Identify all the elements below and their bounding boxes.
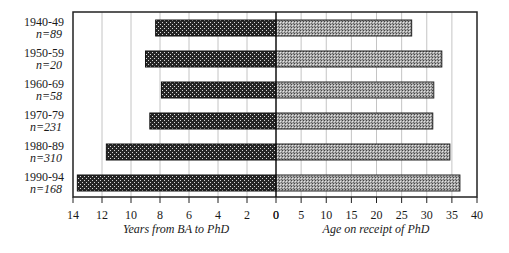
row-label: 1990-94n=168	[0, 171, 64, 195]
row-label: 1940-49n=89	[0, 16, 64, 40]
gridlines	[102, 12, 452, 197]
bar-age-at-phd	[276, 175, 460, 191]
sample-size-label: n=168	[0, 183, 64, 195]
right-tick-label: 30	[421, 208, 433, 223]
bar-years-ba-to-phd	[106, 144, 276, 160]
right-tick-label: 35	[446, 208, 458, 223]
sample-size-label: n=89	[0, 28, 64, 40]
row-label: 1980-89n=310	[0, 140, 64, 164]
bar-years-ba-to-phd	[146, 51, 277, 67]
left-tick-label: 10	[125, 208, 137, 223]
bars	[77, 20, 460, 191]
right-tick-label: 20	[371, 208, 383, 223]
sample-size-label: n=310	[0, 152, 64, 164]
bar-years-ba-to-phd	[161, 82, 276, 98]
plot-frame	[73, 12, 477, 197]
left-tick-label: 2	[244, 208, 250, 223]
left-tick-label: 12	[96, 208, 108, 223]
sample-size-label: n=231	[0, 121, 64, 133]
bar-age-at-phd	[276, 82, 434, 98]
back-to-back-bar-chart: 1940-49n=891950-59n=201960-69n=581970-79…	[0, 0, 509, 253]
left-axis-title: Years from BA to PhD	[123, 222, 229, 237]
bar-age-at-phd	[276, 20, 412, 36]
left-tick-label: 6	[186, 208, 192, 223]
left-tick-label: 8	[157, 208, 163, 223]
left-tick-label: 14	[67, 208, 79, 223]
right-tick-label: 5	[298, 208, 304, 223]
right-tick-label: 0	[273, 208, 279, 223]
bar-age-at-phd	[276, 51, 442, 67]
row-label: 1970-79n=231	[0, 109, 64, 133]
bar-years-ba-to-phd	[77, 175, 276, 191]
bar-years-ba-to-phd	[156, 20, 276, 36]
bar-years-ba-to-phd	[150, 113, 276, 129]
bar-age-at-phd	[276, 144, 450, 160]
right-axis-title: Age on receipt of PhD	[323, 222, 430, 237]
sample-size-label: n=58	[0, 90, 64, 102]
sample-size-label: n=20	[0, 59, 64, 71]
right-tick-label: 10	[320, 208, 332, 223]
tick-marks	[73, 197, 477, 203]
row-label: 1950-59n=20	[0, 47, 64, 71]
right-tick-label: 40	[471, 208, 483, 223]
row-label: 1960-69n=58	[0, 78, 64, 102]
bar-age-at-phd	[276, 113, 433, 129]
right-tick-label: 15	[345, 208, 357, 223]
right-tick-label: 25	[396, 208, 408, 223]
left-tick-label: 4	[215, 208, 221, 223]
